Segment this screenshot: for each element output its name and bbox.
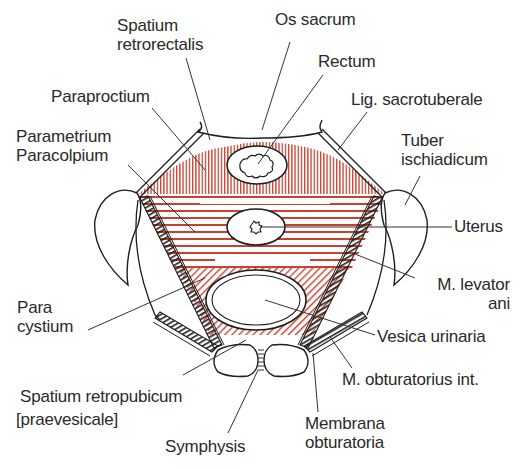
label-rectum: Rectum xyxy=(318,52,375,71)
label-praevesicale: [praevesicale] xyxy=(16,410,118,429)
symphysis-disc xyxy=(258,350,264,370)
pelvic-floor-diagram: Spatium retrorectalis Os sacrum Rectum P… xyxy=(0,0,526,469)
label-spatium-retrorectalis: Spatium retrorectalis xyxy=(117,16,203,54)
label-parametrium-paracolpium: Parametrium Paracolpium xyxy=(16,127,111,165)
label-uterus: Uterus xyxy=(454,217,503,236)
tuber-ischiadicum-left xyxy=(95,190,141,285)
label-m-levator-ani: M. levator ani xyxy=(414,275,510,313)
label-tuber-ischiadicum: Tuber ischiadicum xyxy=(401,131,488,169)
label-m-obturatorius-int: M. obturatorius int. xyxy=(342,370,479,389)
vesica-urinaria-organ xyxy=(206,270,306,330)
rectum-organ xyxy=(227,146,287,184)
label-vesica-urinaria: Vesica urinaria xyxy=(377,327,486,346)
pubic-bone-right xyxy=(264,345,308,377)
os-sacrum-outline xyxy=(198,120,322,138)
label-paraproctium: Paraproctium xyxy=(51,87,150,106)
label-paracystium: Para cystium xyxy=(17,298,73,336)
pubic-bone-left xyxy=(214,345,258,377)
label-lig-sacrotuberale: Lig. sacrotuberale xyxy=(351,90,483,109)
label-spatium-retropubicum: Spatium retropubicum xyxy=(20,387,182,406)
label-membrana-obturatoria: Membrana obturatoria xyxy=(305,414,385,452)
label-os-sacrum: Os sacrum xyxy=(275,10,355,29)
label-symphysis: Symphysis xyxy=(165,437,245,456)
tuber-ischiadicum-right xyxy=(381,190,427,285)
